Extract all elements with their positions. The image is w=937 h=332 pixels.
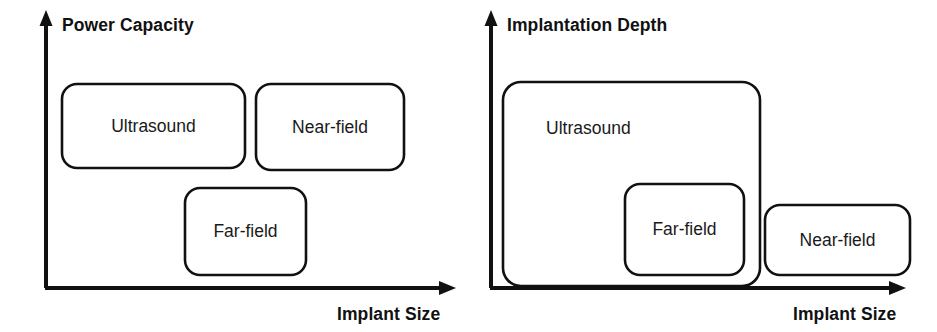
- y-axis-arrowhead-right: [485, 10, 498, 26]
- region-near-field-left[interactable]: Near-field: [256, 84, 404, 170]
- region-ultrasound-left[interactable]: Ultrasound: [62, 84, 245, 168]
- region-label-near-field-right: Near-field: [800, 230, 876, 250]
- panel-implantation-depth: Implantation Depth Implant Size Ultrasou…: [467, 0, 937, 332]
- x-axis-arrowhead-right: [889, 281, 906, 295]
- region-far-field-right[interactable]: Far-field: [625, 184, 744, 275]
- y-axis-arrowhead-left: [40, 10, 53, 26]
- y-axis-title-right: Implantation Depth: [507, 15, 667, 35]
- region-label-ultrasound-left: Ultrasound: [111, 116, 196, 136]
- region-label-ultrasound-right: Ultrasound: [546, 118, 631, 138]
- region-label-far-field-left: Far-field: [213, 221, 277, 241]
- region-label-far-field-right: Far-field: [652, 219, 716, 239]
- panel-power-capacity: Power Capacity Implant Size Ultrasound N…: [0, 0, 467, 332]
- x-axis-arrowhead-left: [439, 281, 456, 295]
- figure-root: Power Capacity Implant Size Ultrasound N…: [0, 0, 937, 332]
- x-axis-title-right: Implant Size: [793, 304, 896, 324]
- region-label-near-field-left: Near-field: [292, 117, 368, 137]
- region-far-field-left[interactable]: Far-field: [185, 188, 306, 275]
- x-axis-title-left: Implant Size: [337, 304, 440, 324]
- y-axis-title-left: Power Capacity: [62, 15, 194, 35]
- region-near-field-right[interactable]: Near-field: [765, 205, 910, 275]
